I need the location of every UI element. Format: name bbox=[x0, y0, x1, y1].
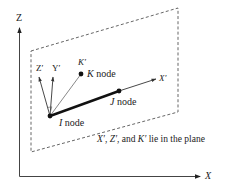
x-prime-axis bbox=[119, 79, 156, 91]
k-node-label: K node bbox=[87, 69, 116, 79]
plane-caption: X′, Z′, and K′ lie in the plane bbox=[97, 135, 205, 145]
y-prime-label: Y′ bbox=[52, 64, 60, 73]
caption-z-prime: Z′ bbox=[110, 134, 117, 144]
x-axis-label: X bbox=[205, 171, 211, 181]
i-node bbox=[48, 114, 53, 119]
z-axis-label: Z bbox=[16, 13, 22, 23]
caption-sep2: , and bbox=[117, 134, 138, 144]
z-prime-label: Z′ bbox=[36, 64, 43, 73]
element-coordinate-diagram: Z X Z′ Y′ K′ X′ K node J node I node X′,… bbox=[0, 0, 231, 188]
element-i-j bbox=[50, 91, 119, 116]
z-prime-axis bbox=[39, 77, 50, 116]
x-prime-label: X′ bbox=[159, 74, 166, 83]
k-node-letter: K bbox=[87, 68, 94, 79]
j-node-label: J node bbox=[110, 97, 136, 107]
caption-x-prime: X′ bbox=[97, 134, 105, 144]
y-prime-axis bbox=[50, 77, 53, 116]
diagram-graphics bbox=[0, 0, 231, 188]
k-prime-label: K′ bbox=[78, 58, 86, 67]
i-node-suffix: node bbox=[62, 117, 84, 128]
j-node-suffix: node bbox=[114, 96, 136, 107]
caption-tail: lie in the plane bbox=[146, 134, 205, 144]
k-node bbox=[79, 72, 84, 77]
k-node-suffix: node bbox=[94, 68, 116, 79]
j-node bbox=[117, 89, 122, 94]
i-node-label: I node bbox=[59, 118, 84, 128]
